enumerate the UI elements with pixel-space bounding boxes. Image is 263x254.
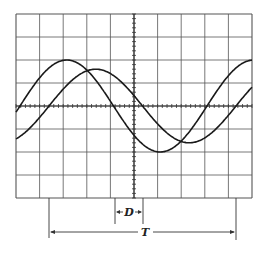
phase-shift-label: D (123, 206, 134, 219)
oscilloscope-diagram: D T (0, 0, 263, 254)
period-label: T (141, 226, 150, 239)
center-axes (16, 14, 252, 198)
